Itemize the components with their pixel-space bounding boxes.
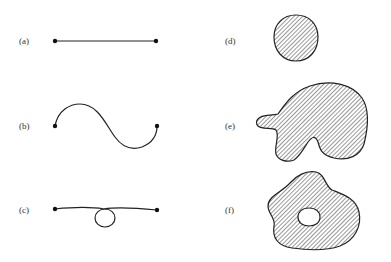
endpoint-dot	[53, 39, 57, 43]
panel-d-label: (d)	[225, 36, 236, 46]
panel-a: (a)	[19, 36, 158, 46]
figure-canvas: (a) (b) (c) (d) (e) (f)	[0, 0, 391, 262]
panel-d: (d)	[225, 15, 318, 61]
arc-loop	[95, 209, 115, 227]
panel-f: (f)	[225, 172, 360, 250]
endpoint-dot	[53, 207, 57, 211]
endpoint-dot	[155, 124, 159, 128]
panel-c: (c)	[19, 205, 159, 227]
disk-region	[274, 15, 318, 61]
panel-a-label: (a)	[19, 36, 29, 46]
panel-c-label: (c)	[19, 205, 29, 215]
region-with-hole	[268, 172, 360, 250]
panel-f-label: (f)	[225, 205, 234, 215]
panel-b-label: (b)	[19, 121, 30, 131]
endpoint-dot	[53, 124, 57, 128]
irregular-region	[257, 83, 368, 161]
panel-e-label: (e)	[225, 121, 235, 131]
panel-b: (b)	[19, 104, 159, 148]
s-curve-arc	[55, 104, 157, 148]
endpoint-dot	[155, 208, 159, 212]
endpoint-dot	[154, 39, 158, 43]
panel-e: (e)	[225, 83, 368, 161]
